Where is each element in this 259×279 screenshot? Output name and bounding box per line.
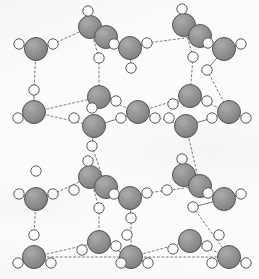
- hydrogen-atom: [142, 188, 152, 198]
- hydrogen-atom: [188, 202, 198, 212]
- hydrogen-atom: [122, 230, 132, 240]
- oxygen-atom: [23, 246, 46, 269]
- oxygen-atom: [179, 230, 202, 253]
- hydrogen-atom: [29, 85, 39, 95]
- oxygen-atom: [218, 101, 241, 124]
- hydrogen-atom: [203, 188, 213, 198]
- hydrogen-atom: [150, 113, 160, 123]
- hydrogen-atom: [13, 113, 23, 123]
- hydrogen-atom: [29, 230, 39, 240]
- hydrogen-atom: [236, 189, 246, 199]
- hydrogen-atom: [48, 39, 58, 49]
- oxygen-atom: [25, 188, 48, 211]
- oxygen-atom: [88, 231, 111, 254]
- hydrogen-atom: [109, 189, 119, 199]
- hydrogen-atom: [143, 258, 153, 268]
- molecular-structure-canvas: [0, 0, 259, 279]
- oxygen-atom: [83, 115, 106, 138]
- oxygen-atom: [127, 101, 150, 124]
- hydrogen-atom: [168, 244, 178, 254]
- hydrogen-atom: [31, 166, 41, 176]
- oxygen-atom: [213, 38, 236, 61]
- hydrogen-atom: [109, 39, 119, 49]
- ice-crystal-structure-figure: [0, 0, 259, 279]
- oxygen-atom: [119, 37, 142, 60]
- hydrogen-atom: [83, 6, 93, 16]
- hydrogen-atom: [177, 4, 187, 14]
- hydrogen-atom: [142, 38, 152, 48]
- hydrogen-atom: [241, 258, 251, 268]
- hydrogen-atom: [236, 39, 246, 49]
- oxygen-atom: [25, 38, 48, 61]
- hydrogen-atom: [162, 185, 172, 195]
- hydrogen-atom: [116, 258, 126, 268]
- oxygen-atom: [213, 188, 236, 211]
- atom-layer: [13, 4, 251, 269]
- hydrogen-atom: [202, 96, 212, 106]
- oxygen-atom: [179, 85, 202, 108]
- hydrogen-atom: [207, 258, 217, 268]
- hydrogen-atom: [116, 113, 126, 123]
- hydrogen-atom: [207, 113, 217, 123]
- hydrogen-atom: [214, 230, 224, 240]
- hydrogen-atom: [46, 258, 56, 268]
- hydrogen-atom: [69, 113, 79, 123]
- hydrogen-atom: [48, 189, 58, 199]
- hydrogen-atom: [77, 245, 87, 255]
- hydrogen-atom: [164, 113, 174, 123]
- hydrogen-atom: [87, 141, 97, 151]
- hydrogen-atom: [111, 241, 121, 251]
- oxygen-atom: [119, 187, 142, 210]
- hydrogen-atom: [126, 213, 136, 223]
- hydrogen-atom: [94, 53, 104, 63]
- hydrogen-atom: [13, 258, 23, 268]
- hydrogen-atom: [87, 103, 97, 113]
- hydrogen-atom: [202, 241, 212, 251]
- hydrogen-atom: [168, 99, 178, 109]
- hydrogen-atom: [203, 38, 213, 48]
- hydrogen-atom: [83, 156, 93, 166]
- hydrogen-atom: [94, 203, 104, 213]
- hydrogen-atom: [177, 154, 187, 164]
- hydrogen-atom: [188, 52, 198, 62]
- hydrogen-atom: [69, 185, 79, 195]
- hydrogen-atom: [202, 65, 212, 75]
- hydrogen-atom: [241, 113, 251, 123]
- hydrogen-atom: [14, 189, 24, 199]
- oxygen-atom: [218, 246, 241, 269]
- hydrogen-atom: [14, 39, 24, 49]
- oxygen-atom: [23, 101, 46, 124]
- hydrogen-atom: [126, 63, 136, 73]
- oxygen-atom: [175, 115, 198, 138]
- hydrogen-atom: [111, 96, 121, 106]
